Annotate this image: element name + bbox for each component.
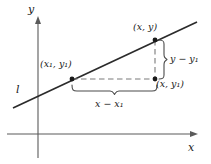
vertical-rise-label: y − y₁ — [170, 54, 199, 64]
x-axis-arrowhead — [190, 131, 198, 137]
x-axis-label: x — [188, 142, 194, 153]
point-marker-x-y — [153, 38, 158, 43]
rise-brace — [159, 40, 167, 79]
slope-diagram-figure: y x l (x, y) (x₁, y₁) (x, y₁) y − y₁ x −… — [0, 0, 211, 164]
run-brace-group — [72, 85, 157, 95]
run-brace — [72, 85, 157, 95]
point-label-x1-y1: (x₁, y₁) — [40, 59, 72, 69]
y-axis-label: y — [28, 4, 34, 15]
point-marker-x1-y1 — [70, 77, 75, 82]
line-l-label: l — [16, 84, 20, 95]
horizontal-run-label: x − x₁ — [95, 99, 124, 109]
triangle-legs-group — [72, 40, 155, 79]
y-axis-arrowhead — [35, 16, 41, 24]
point-label-x-y1: (x, y₁) — [156, 79, 184, 89]
rise-brace-group — [159, 40, 167, 79]
point-label-x-y: (x, y) — [133, 22, 157, 32]
